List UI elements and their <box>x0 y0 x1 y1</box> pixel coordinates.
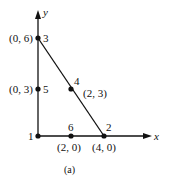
node-1-label: 1 <box>28 131 34 142</box>
node-4-label: 4 <box>74 76 80 87</box>
node-6-coord: (2, 0) <box>57 142 81 153</box>
y-axis-label: y <box>43 7 48 18</box>
x-axis-arrow-icon <box>143 133 152 139</box>
node-5-coord: (0, 3) <box>9 84 33 95</box>
node-5 <box>35 86 40 91</box>
figure-caption: (a) <box>64 165 75 175</box>
node-2-coord: (4, 0) <box>92 142 116 153</box>
node-3 <box>35 35 40 40</box>
node-2-label: 2 <box>106 122 112 133</box>
node-4-coord: (2, 3) <box>83 88 107 99</box>
node-6 <box>68 133 73 138</box>
node-2 <box>101 133 106 138</box>
x-axis-label: x <box>154 131 159 142</box>
node-6-label: 6 <box>68 122 74 133</box>
node-4 <box>68 86 73 91</box>
node-3-label: 3 <box>43 33 49 44</box>
node-5-label: 5 <box>43 84 49 95</box>
node-3-coord: (0, 6) <box>9 33 33 44</box>
y-axis-arrow-icon <box>35 10 41 19</box>
node-1 <box>35 133 40 138</box>
